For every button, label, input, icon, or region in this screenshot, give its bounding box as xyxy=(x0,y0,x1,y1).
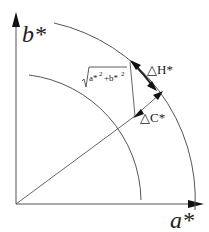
formula-b-exponent: 2 xyxy=(121,70,125,78)
formula-a-exponent: 2 xyxy=(99,70,103,78)
color-difference-diagram: b* a* △H* △C* a* 2 +b* 2 xyxy=(0,0,209,232)
delta-c-label: △C* xyxy=(140,110,165,125)
chroma-hypotenuse-line xyxy=(130,62,135,116)
delta-h-label: △H* xyxy=(147,62,173,77)
formula-b-term: +b* xyxy=(104,73,119,83)
radial-line xyxy=(16,116,135,204)
chroma-formula: a* 2 +b* 2 xyxy=(82,67,127,87)
inner-chroma-arc xyxy=(29,75,141,200)
outer-chroma-arc xyxy=(54,23,195,210)
b-axis-arrowhead-icon xyxy=(12,12,20,27)
formula-a-term: a* xyxy=(89,73,98,83)
a-axis-label: a* xyxy=(170,207,194,232)
b-axis-label: b* xyxy=(22,21,46,47)
